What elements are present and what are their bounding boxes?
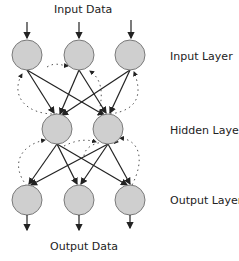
edges-input-hidden	[27, 70, 130, 115]
output-node-3	[115, 185, 145, 215]
output-layer-label: Output Layer	[170, 194, 239, 207]
input-data-label: Input Data	[54, 3, 112, 16]
input-node-3	[115, 40, 145, 70]
edges-hidden-output	[29, 144, 130, 185]
input-layer-nodes	[12, 40, 145, 70]
output-arrows	[27, 215, 130, 230]
input-arrows	[27, 20, 131, 38]
output-layer-nodes	[12, 185, 145, 215]
input-node-1	[12, 40, 42, 70]
hidden-layer-label: Hidden Layer	[170, 124, 239, 137]
hidden-node-1	[42, 114, 72, 144]
output-node-2	[64, 185, 94, 215]
output-data-label: Output Data	[50, 240, 118, 253]
input-node-2	[64, 40, 94, 70]
hidden-layer-nodes	[42, 114, 123, 144]
input-layer-label: Input Layer	[170, 50, 233, 63]
hidden-node-2	[93, 114, 123, 144]
output-node-1	[12, 185, 42, 215]
